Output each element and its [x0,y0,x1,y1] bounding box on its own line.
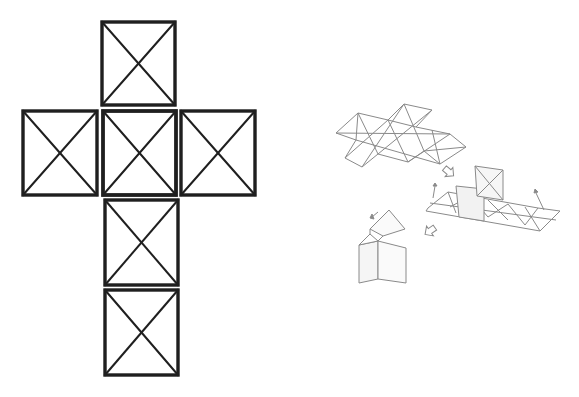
cube-net [23,22,255,375]
flat-triangulated-net [336,104,466,167]
net-face-right [181,111,255,195]
net-face-lower [105,200,178,285]
house-model [359,210,406,283]
diagram-canvas [0,0,579,397]
arrow-icon [441,164,458,181]
net-face-top [102,22,175,105]
net-face-bottom [105,290,178,375]
arrow-icon [422,223,439,240]
net-face-center [103,111,176,195]
net-face-left [23,111,97,195]
